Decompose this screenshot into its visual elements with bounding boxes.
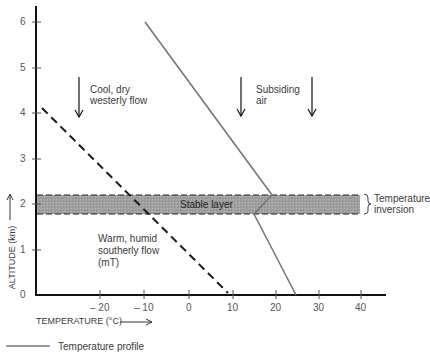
annotation-line: air	[256, 95, 300, 106]
x-tick-label: – 20	[90, 302, 109, 313]
annotation-line: inversion	[374, 204, 430, 215]
annotation-line: westerly flow	[90, 95, 147, 106]
y-axis	[32, 6, 41, 296]
x-axis	[35, 290, 386, 299]
annotation-line: (mT)	[98, 257, 159, 269]
x-tick-label: – 10	[134, 302, 153, 313]
y-axis-arrow-icon	[7, 194, 13, 220]
legend-label: Temperature profile	[58, 341, 144, 352]
x-tick-label: 0	[186, 302, 192, 313]
x-axis-arrow-icon	[120, 319, 152, 325]
y-tick-label: 6	[20, 16, 26, 27]
arrow-down-icon	[308, 77, 316, 116]
y-tick-label: 5	[20, 62, 26, 73]
x-tick-label: 30	[313, 302, 324, 313]
arrow-down-icon	[75, 77, 83, 117]
annotation-line: southerly flow	[98, 245, 159, 257]
y-tick-label: 2	[20, 198, 26, 209]
x-tick-label: 40	[355, 302, 366, 313]
y-tick-label: 4	[20, 107, 26, 118]
y-tick-label: 0	[20, 289, 26, 300]
annotation-line: Cool, dry	[90, 84, 147, 95]
x-tick-label: 20	[270, 302, 281, 313]
annotation-warm-humid-flow: Warm, humid southerly flow (mT)	[98, 233, 159, 269]
annotation-temperature-inversion: Temperature inversion	[374, 193, 430, 215]
y-axis-title: ALTITUDE (km)	[7, 218, 18, 298]
temperature-profile-line	[145, 22, 296, 295]
arrow-down-icon	[237, 77, 245, 116]
y-tick-label: 1	[20, 244, 26, 255]
brace-icon	[364, 194, 371, 214]
annotation-line: Subsiding	[256, 84, 300, 95]
annotation-line: Temperature	[374, 193, 430, 204]
annotation-cool-dry-flow: Cool, dry westerly flow	[90, 84, 147, 106]
x-tick-label: 10	[227, 302, 238, 313]
x-axis-title: TEMPERATURE (°C)	[36, 316, 122, 327]
annotation-line: Warm, humid	[98, 233, 159, 245]
y-tick-label: 3	[20, 153, 26, 164]
stable-layer-label: Stable layer	[180, 199, 233, 210]
annotation-subsiding-air: Subsiding air	[256, 84, 300, 106]
